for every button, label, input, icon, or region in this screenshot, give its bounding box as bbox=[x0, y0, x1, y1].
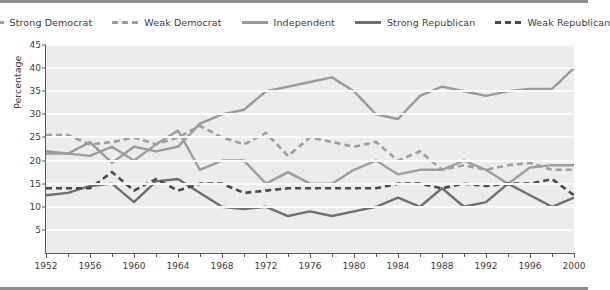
legend-label: Strong Democrat bbox=[10, 17, 93, 28]
grid-line bbox=[46, 229, 574, 231]
x-tick-mark-minor bbox=[244, 253, 245, 257]
x-tick-mark bbox=[574, 253, 575, 258]
y-tick-mark bbox=[42, 160, 46, 161]
y-tick-label: 25 bbox=[30, 132, 41, 142]
x-tick-mark-minor bbox=[376, 253, 377, 257]
grid-line bbox=[46, 90, 574, 92]
y-axis-label: Percentage bbox=[12, 56, 23, 109]
legend-label: Weak Republican bbox=[527, 17, 610, 28]
legend-item[interactable]: Independent bbox=[242, 17, 335, 28]
x-tick-mark-minor bbox=[288, 253, 289, 257]
legend-label: Weak Democrat bbox=[144, 17, 221, 28]
y-tick-mark bbox=[42, 91, 46, 92]
x-tick-mark-minor bbox=[200, 253, 201, 257]
x-tick-label: 1972 bbox=[255, 261, 278, 271]
x-tick-mark bbox=[178, 253, 179, 258]
y-tick-mark bbox=[42, 183, 46, 184]
y-tick-label: 40 bbox=[30, 63, 41, 73]
y-tick-label: 5 bbox=[35, 225, 41, 235]
grid-line bbox=[46, 206, 574, 208]
legend-item[interactable]: Weak Democrat bbox=[112, 17, 221, 28]
x-tick-label: 1988 bbox=[431, 261, 454, 271]
x-tick-mark bbox=[398, 253, 399, 258]
series-line bbox=[46, 126, 574, 170]
x-tick-label: 2000 bbox=[563, 261, 586, 271]
legend-label: Independent bbox=[274, 17, 335, 28]
y-tick-label: 45 bbox=[30, 40, 41, 50]
series-lines bbox=[46, 45, 574, 253]
x-tick-mark bbox=[222, 253, 223, 258]
x-tick-mark-minor bbox=[508, 253, 509, 257]
x-tick-label: 1996 bbox=[519, 261, 542, 271]
grid-line bbox=[46, 160, 574, 162]
y-tick-mark bbox=[42, 206, 46, 207]
x-tick-label: 1960 bbox=[123, 261, 146, 271]
x-tick-mark bbox=[90, 253, 91, 258]
y-tick-label: 30 bbox=[30, 109, 41, 119]
x-tick-label: 1952 bbox=[35, 261, 58, 271]
x-tick-label: 1980 bbox=[343, 261, 366, 271]
x-tick-mark bbox=[310, 253, 311, 258]
x-tick-mark-minor bbox=[552, 253, 553, 257]
grid-line bbox=[46, 44, 574, 46]
x-tick-mark-minor bbox=[156, 253, 157, 257]
y-tick-label: 35 bbox=[30, 86, 41, 96]
x-tick-label: 1964 bbox=[167, 261, 190, 271]
y-tick-label: 15 bbox=[30, 179, 41, 189]
y-tick-label: 10 bbox=[30, 202, 41, 212]
y-tick-mark bbox=[42, 68, 46, 69]
x-tick-mark bbox=[530, 253, 531, 258]
x-tick-mark-minor bbox=[112, 253, 113, 257]
grid-line bbox=[46, 67, 574, 69]
y-tick-mark bbox=[42, 229, 46, 230]
x-tick-label: 1976 bbox=[299, 261, 322, 271]
x-tick-label: 1984 bbox=[387, 261, 410, 271]
legend-item[interactable]: Weak Republican bbox=[495, 17, 610, 28]
top-divider bbox=[0, 0, 588, 3]
x-tick-mark-minor bbox=[464, 253, 465, 257]
x-tick-mark-minor bbox=[332, 253, 333, 257]
x-tick-label: 1992 bbox=[475, 261, 498, 271]
legend-item[interactable]: Strong Republican bbox=[355, 17, 475, 28]
x-tick-mark bbox=[46, 253, 47, 258]
x-tick-mark bbox=[134, 253, 135, 258]
grid-line bbox=[46, 113, 574, 115]
x-tick-label: 1956 bbox=[79, 261, 102, 271]
grid-line bbox=[46, 136, 574, 138]
y-tick-label: 20 bbox=[30, 156, 41, 166]
plot-area: Percentage 51015202530354045195219561960… bbox=[45, 45, 574, 254]
x-tick-mark-minor bbox=[420, 253, 421, 257]
chart-legend: Strong DemocratWeak DemocratIndependentS… bbox=[0, 14, 588, 30]
x-tick-label: 1968 bbox=[211, 261, 234, 271]
x-tick-mark bbox=[354, 253, 355, 258]
series-line bbox=[46, 68, 574, 163]
x-tick-mark bbox=[266, 253, 267, 258]
legend-label: Strong Republican bbox=[387, 17, 475, 28]
x-tick-mark bbox=[486, 253, 487, 258]
y-tick-mark bbox=[42, 45, 46, 46]
grid-line bbox=[46, 183, 574, 185]
x-tick-mark bbox=[442, 253, 443, 258]
x-tick-mark-minor bbox=[68, 253, 69, 257]
legend-item[interactable]: Strong Democrat bbox=[0, 17, 92, 28]
y-tick-mark bbox=[42, 114, 46, 115]
y-tick-mark bbox=[42, 137, 46, 138]
